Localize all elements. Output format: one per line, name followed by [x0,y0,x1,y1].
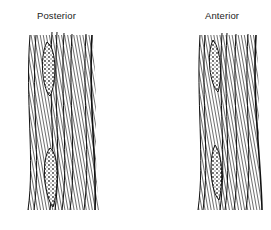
posterior-panel [28,32,100,210]
anterior-panel [198,33,262,210]
anatomical-illustration [0,0,271,230]
